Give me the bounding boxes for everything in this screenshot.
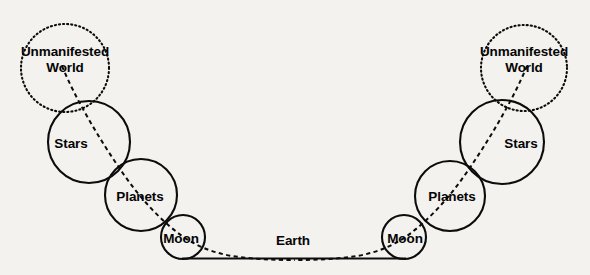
label-planets-left: Planets bbox=[116, 189, 163, 204]
label-moon-left: Moon bbox=[163, 231, 199, 246]
label-unmanifested-world-left-line2: World bbox=[21, 60, 109, 76]
label-stars-left: Stars bbox=[54, 136, 87, 151]
label-unmanifested-world-left: Unmanifested World bbox=[21, 44, 109, 76]
label-earth: Earth bbox=[276, 233, 310, 248]
label-unmanifested-world-right-line2: World bbox=[480, 60, 568, 76]
label-unmanifested-world-left-line1: Unmanifested bbox=[21, 44, 109, 60]
diagram-canvas: Unmanifested World Stars Planets Moon Un… bbox=[0, 0, 590, 275]
label-stars-right: Stars bbox=[504, 136, 537, 151]
label-moon-right: Moon bbox=[387, 231, 423, 246]
label-planets-right: Planets bbox=[428, 189, 475, 204]
label-unmanifested-world-right: Unmanifested World bbox=[480, 44, 568, 76]
label-unmanifested-world-right-line1: Unmanifested bbox=[480, 44, 568, 60]
